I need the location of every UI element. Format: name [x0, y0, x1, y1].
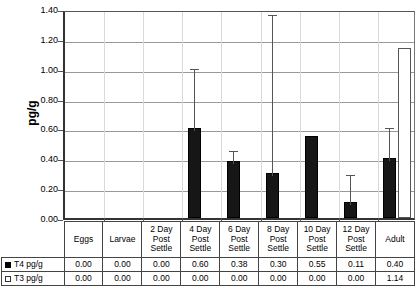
- table-corner-cell: [2, 222, 65, 258]
- bar-t4: [266, 173, 279, 218]
- error-bar-cap: [190, 69, 199, 70]
- category-separator: [261, 12, 262, 218]
- table-cell-value: 0.00: [142, 258, 181, 272]
- table-header-category: Larvae: [103, 222, 142, 258]
- y-axis-tick-mark: [58, 101, 63, 102]
- category-separator: [339, 12, 340, 218]
- y-axis-tick-label: 0.60: [24, 125, 58, 134]
- y-axis-tick-mark: [58, 130, 63, 131]
- table-header-category: 4 DayPostSettle: [181, 222, 220, 258]
- error-bar-line: [272, 15, 273, 176]
- table-header-category: Adult: [376, 222, 415, 258]
- bar-t4: [383, 158, 396, 218]
- table-cell-value: 0.00: [337, 272, 376, 286]
- category-separator: [221, 12, 222, 218]
- series-name: T3 pg/g: [14, 273, 43, 283]
- table-header-category: 12 DayPostSettle: [337, 222, 376, 258]
- gridline: [65, 72, 414, 73]
- table-cell-value: 0.00: [103, 258, 142, 272]
- y-axis-tick-label: 0.20: [24, 185, 58, 194]
- table-header-category: Eggs: [64, 222, 103, 258]
- bar-t4: [227, 161, 240, 218]
- y-axis-tick-label: 0.80: [24, 96, 58, 105]
- table-cell-value: 0.00: [259, 272, 298, 286]
- y-axis-tick-mark: [58, 220, 63, 221]
- gridline: [65, 42, 414, 43]
- bar-t3: [398, 48, 411, 218]
- table-row-categories: EggsLarvae2 DayPostSettle4 DayPostSettle…: [2, 222, 415, 258]
- data-table: EggsLarvae2 DayPostSettle4 DayPostSettle…: [1, 221, 415, 286]
- error-bar-line: [233, 151, 234, 164]
- filled-square-icon: [5, 262, 11, 268]
- y-axis-tick-mark: [58, 160, 63, 161]
- table-cell-value: 1.14: [376, 272, 415, 286]
- error-bar-cap: [268, 15, 277, 16]
- category-separator: [182, 12, 183, 218]
- y-axis-tick-mark: [58, 11, 63, 12]
- table-header-category: 6 DayPostSettle: [220, 222, 259, 258]
- category-separator: [378, 12, 379, 218]
- legend-label-t3: T3 pg/g: [2, 272, 65, 286]
- y-axis-tick-mark: [58, 190, 63, 191]
- table-cell-value: 0.00: [64, 258, 103, 272]
- error-bar-line: [194, 69, 195, 132]
- open-square-icon: [5, 276, 11, 282]
- bar-t4: [188, 128, 201, 218]
- table-cell-value: 0.00: [220, 272, 259, 286]
- error-bar-cap: [385, 128, 394, 129]
- series-name: T4 pg/g: [14, 259, 43, 269]
- table-cell-value: 0.38: [220, 258, 259, 272]
- error-bar-cap: [346, 175, 355, 176]
- y-axis-tick-mark: [58, 71, 63, 72]
- table-row-t4: T4 pg/g0.000.000.000.600.380.300.550.110…: [2, 258, 415, 272]
- table-cell-value: 0.55: [298, 258, 337, 272]
- table-row-t3: T3 pg/g0.000.000.000.000.000.000.000.001…: [2, 272, 415, 286]
- y-axis-tick-mark: [58, 41, 63, 42]
- table-cell-value: 0.00: [181, 272, 220, 286]
- gridline: [65, 102, 414, 103]
- table-cell-value: 0.30: [259, 258, 298, 272]
- table-cell-value: 0.00: [103, 272, 142, 286]
- plot-area: [63, 11, 415, 220]
- category-separator: [300, 12, 301, 218]
- table-cell-value: 0.00: [64, 272, 103, 286]
- y-axis-tick-label: 0.40: [24, 155, 58, 164]
- category-separator: [104, 12, 105, 218]
- error-bar-cap: [229, 151, 238, 152]
- table-header-category: 10 DayPostSettle: [298, 222, 337, 258]
- table-header-category: 2 DayPostSettle: [142, 222, 181, 258]
- table-cell-value: 0.11: [337, 258, 376, 272]
- legend-label-t4: T4 pg/g: [2, 258, 65, 272]
- table-header-category: 8 DayPostSettle: [259, 222, 298, 258]
- y-axis-tick-label: 1.00: [24, 66, 58, 75]
- category-separator: [143, 12, 144, 218]
- error-bar-line: [350, 175, 351, 205]
- table-cell-value: 0.60: [181, 258, 220, 272]
- y-axis-tick-label: 1.40: [24, 6, 58, 15]
- chart-figure: pg/g 0.000.200.400.600.801.001.201.40 Eg…: [0, 0, 418, 298]
- gridline: [65, 131, 414, 132]
- table-cell-value: 0.40: [376, 258, 415, 272]
- error-bar-line: [389, 128, 390, 161]
- bar-t4: [305, 136, 318, 218]
- table-cell-value: 0.00: [142, 272, 181, 286]
- table-cell-value: 0.00: [298, 272, 337, 286]
- y-axis-tick-label: 1.20: [24, 36, 58, 45]
